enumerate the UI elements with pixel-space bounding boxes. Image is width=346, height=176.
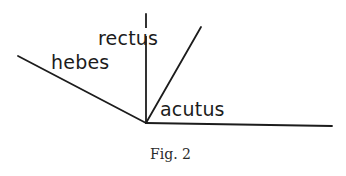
base-ray — [146, 123, 332, 126]
acutus-label: acutus — [160, 100, 225, 119]
figure-caption: Fig. 2 — [150, 147, 191, 161]
rectus-label: rectus — [98, 29, 158, 48]
hebes-label: hebes — [51, 53, 109, 72]
